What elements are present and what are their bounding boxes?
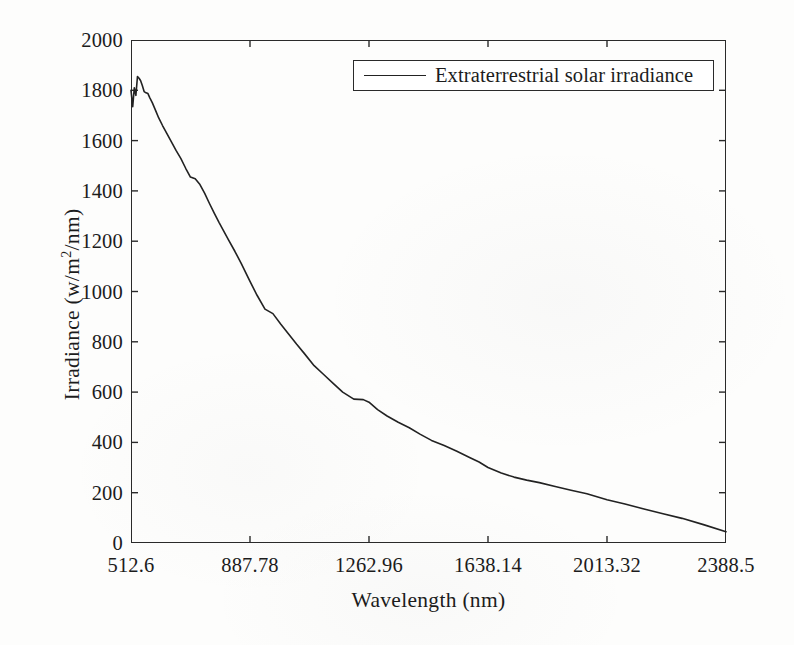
y-axis-title-base: Irradiance (w/m: [60, 258, 84, 400]
y-axis-title-superscript: 2: [58, 250, 74, 257]
y-axis-title-tail: /nm): [60, 209, 84, 251]
legend-line-swatch: [364, 75, 426, 76]
legend-box: Extraterrestrial solar irradiance: [353, 60, 714, 91]
x-tick-label: 512.6: [107, 555, 154, 576]
figure-canvas: 0200400600800100012001400160018002000 51…: [0, 0, 794, 645]
x-tick-label: 1638.14: [454, 555, 522, 576]
legend-label-extraterrestrial-solar-irradiance: Extraterrestrial solar irradiance: [435, 65, 693, 86]
x-axis-tick-labels: 512.6887.781262.961638.142013.322388.5: [0, 0, 794, 645]
x-tick-label: 887.78: [221, 555, 279, 576]
x-axis-title: Wavelength (nm): [131, 588, 726, 613]
x-tick-label: 1262.96: [335, 555, 403, 576]
x-tick-label: 2388.5: [697, 555, 755, 576]
x-tick-label: 2013.32: [573, 555, 641, 576]
y-axis-title: Irradiance (w/m2/nm): [58, 53, 85, 556]
